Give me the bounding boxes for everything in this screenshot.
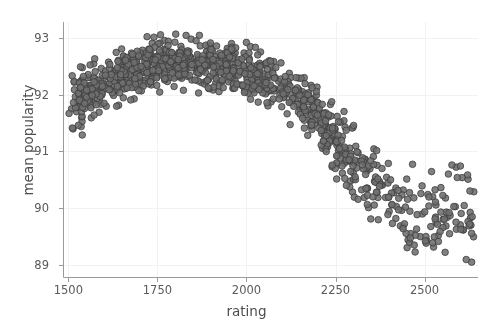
x-tick-label: 1750 <box>127 283 187 297</box>
x-tick-label: 2250 <box>306 283 366 297</box>
x-tick-label: 2000 <box>216 283 276 297</box>
y-tick-label: 90 <box>9 201 49 215</box>
y-tick-label: 92 <box>9 88 49 102</box>
scatter-plot-figure: mean popularity rating 8990919293 150017… <box>0 0 493 325</box>
y-tick-label: 93 <box>9 31 49 45</box>
y-tick-label: 91 <box>9 144 49 158</box>
x-tick-label: 1500 <box>38 283 98 297</box>
x-axis-title: rating <box>0 303 493 319</box>
y-axis-title: mean popularity <box>20 60 36 220</box>
y-tick-label: 89 <box>9 258 49 272</box>
x-tick-label: 2500 <box>395 283 455 297</box>
scatter-plot-canvas <box>0 0 493 325</box>
